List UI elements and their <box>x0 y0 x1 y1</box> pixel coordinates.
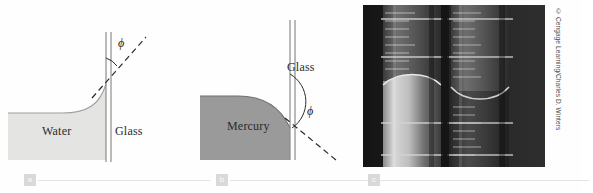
mercury-tangent-dashed-line <box>285 118 336 160</box>
panel-badge-b: b <box>216 174 228 186</box>
panel-water-diagram: Water Glass ϕ a <box>0 0 186 193</box>
left-cylinder-mercury <box>381 5 443 167</box>
water-label: Water <box>42 124 71 139</box>
panel-cylinders-photo: © Cengage Learning/Charles D. Winters c <box>360 0 581 193</box>
left-cylinder-highlight <box>393 5 396 167</box>
mercury-diagram-art <box>186 0 358 168</box>
right-cylinder-shadow <box>499 5 505 167</box>
panel-c-caption-bar: c <box>360 171 593 189</box>
panel-badge-c: c <box>368 174 380 186</box>
right-cylinder-water <box>447 5 513 167</box>
cylinder-gap-shadow <box>441 5 449 167</box>
left-cylinder-shadow <box>429 5 434 167</box>
graduated-cylinders-photograph <box>363 5 545 167</box>
panel-mercury-diagram: Mercury Glass ϕ b <box>186 0 358 193</box>
mercury-label: Mercury <box>227 119 270 134</box>
glass-label-panel-b: Glass <box>287 60 315 75</box>
panel-badge-a: a <box>24 174 36 186</box>
right-cylinder-highlight <box>459 5 462 167</box>
photo-credit: © Cengage Learning/Charles D. Winters <box>548 8 562 164</box>
panel-c-rule <box>382 180 589 181</box>
panel-a-rule <box>38 180 210 181</box>
water-diagram-art <box>0 0 186 168</box>
contact-angle-symbol-panel-b: ϕ <box>307 104 313 119</box>
water-fill <box>8 84 106 160</box>
glass-label-panel-a: Glass <box>115 124 143 139</box>
contact-angle-symbol-panel-a: ϕ <box>118 36 124 51</box>
mercury-angle-arc <box>290 74 306 128</box>
